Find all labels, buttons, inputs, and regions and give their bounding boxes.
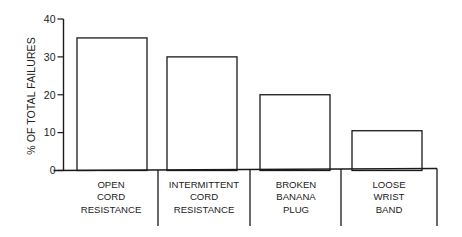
y-tick-label: 30 — [44, 51, 56, 63]
category-label: OPENCORDRESISTANCE — [81, 179, 142, 215]
y-tick-label: 20 — [44, 89, 56, 101]
bar-chart: % OF TOTAL FAILURES 010203040 OPENCORDRE… — [0, 0, 462, 237]
bar — [260, 95, 330, 171]
y-tick-label: 10 — [44, 126, 56, 138]
y-axis-title: % OF TOTAL FAILURES — [25, 37, 37, 155]
category-label: LOOSEWRISTBAND — [372, 179, 405, 215]
category-label: INTERMITTENTCORDRESISTANCE — [169, 179, 239, 215]
bar — [352, 131, 422, 171]
bars — [77, 38, 422, 171]
bar — [167, 57, 237, 171]
bar — [77, 38, 147, 171]
y-tick-label: 40 — [44, 13, 56, 25]
x-axis: OPENCORDRESISTANCEINTERMITTENTCORDRESIST… — [54, 169, 438, 227]
y-axis: 010203040 — [44, 13, 64, 177]
category-label: BROKENBANANAPLUG — [276, 179, 317, 215]
